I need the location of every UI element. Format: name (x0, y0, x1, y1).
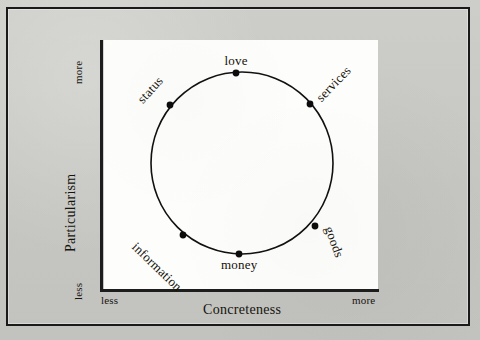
data-point[interactable] (312, 223, 319, 230)
node-label-money: money (221, 257, 257, 273)
data-point[interactable] (307, 101, 314, 108)
circumplex-circle (151, 72, 333, 254)
x-axis-low-tick-label: less (101, 294, 118, 306)
data-point-group (167, 70, 319, 258)
x-axis-high-tick-label: more (352, 294, 375, 306)
data-point[interactable] (233, 70, 240, 77)
data-point[interactable] (180, 232, 187, 239)
node-label-love: love (225, 53, 248, 69)
y-axis-title: Particularism (63, 173, 79, 252)
y-axis-low-tick-label: less (72, 283, 84, 300)
data-point[interactable] (167, 102, 174, 109)
x-axis-title: Concreteness (203, 302, 281, 318)
figure-canvas: more less less more Particularism Concre… (0, 0, 480, 340)
y-axis-high-tick-label: more (72, 61, 84, 84)
